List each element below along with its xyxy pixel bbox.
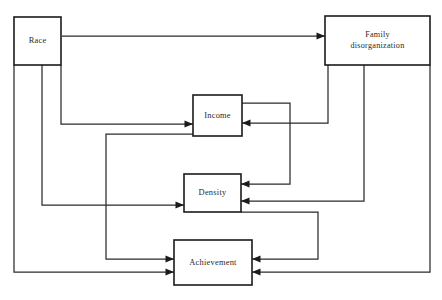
arrow-head-icon (317, 32, 326, 39)
arrow-head-icon (241, 180, 250, 187)
edge-race-to-family (62, 32, 325, 39)
edge-family-to-income (242, 65, 328, 127)
node-income: Income (193, 95, 242, 136)
path-diagram-svg: RaceFamilydisorganizationIncomeDensityAc… (0, 0, 442, 300)
node-family_disorganization: Familydisorganization (325, 16, 430, 65)
node-label: Achievement (189, 257, 237, 266)
arrow-head-icon (176, 201, 185, 208)
edge-line (241, 103, 290, 184)
edge-income-to-density (241, 103, 290, 188)
node-race: Race (14, 17, 61, 65)
edge-race-to-income (61, 65, 193, 128)
node-label-line: Race (29, 36, 47, 45)
arrow-head-icon (252, 268, 261, 275)
arrow-head-icon (242, 119, 251, 126)
edge-line (241, 65, 364, 201)
edge-line (61, 65, 193, 124)
edges-layer (14, 32, 430, 275)
node-label: Density (199, 188, 227, 197)
node-label-line: Density (199, 188, 227, 197)
node-density: Density (184, 174, 241, 212)
arrow-head-icon (241, 197, 250, 204)
node-label: Race (29, 36, 47, 45)
node-label-line: Achievement (189, 257, 237, 266)
edge-line (252, 65, 430, 272)
node-label-line: disorganization (350, 41, 404, 50)
node-label-line: Income (204, 110, 231, 119)
node-label-line: Family (365, 30, 390, 39)
edge-race-to-density (42, 65, 184, 209)
arrow-head-icon (185, 120, 194, 127)
edge-race-to-achievement (14, 65, 174, 276)
node-achievement: Achievement (174, 240, 252, 285)
path-diagram-canvas: RaceFamilydisorganizationIncomeDensityAc… (0, 0, 442, 300)
edge-line (14, 65, 174, 272)
nodes-layer: RaceFamilydisorganizationIncomeDensityAc… (14, 16, 430, 285)
edge-line (42, 65, 184, 205)
arrow-head-icon (166, 268, 175, 275)
edge-family-to-achievement (252, 65, 430, 276)
arrow-head-icon (166, 255, 175, 262)
arrow-head-icon (252, 255, 261, 262)
node-label: Income (204, 110, 231, 119)
edge-line (242, 65, 328, 123)
